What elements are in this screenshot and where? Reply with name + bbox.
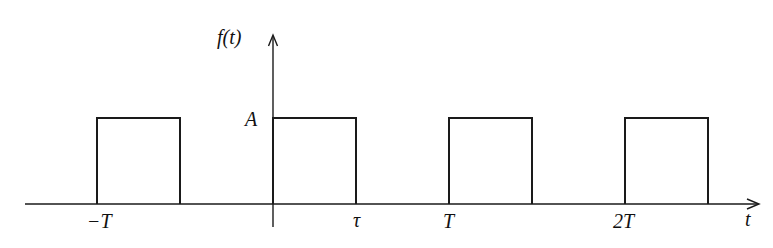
pulse-zero [273, 118, 356, 204]
tick-label-tau: τ [353, 209, 361, 231]
pulse-train-diagram: f(t) A −T τ T 2T t [0, 0, 773, 248]
pulse-T [449, 118, 532, 204]
tick-label-2T: 2T [613, 210, 636, 232]
y-axis-label: f(t) [217, 26, 242, 49]
tick-label-T: T [443, 210, 456, 232]
pulse-minus-T [97, 118, 180, 204]
t-axis [25, 199, 759, 209]
tick-label-minus-T: −T [87, 210, 113, 232]
x-axis-label: t [745, 208, 751, 230]
amplitude-label: A [243, 108, 258, 130]
pulse-2T [625, 118, 708, 204]
